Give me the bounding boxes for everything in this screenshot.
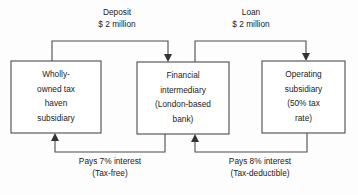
interest-7-edge-label-line: (Tax-free) (92, 168, 128, 178)
interest-7-edge-arrowhead-icon (51, 133, 59, 141)
interest-7-edge-label: Pays 7% interest(Tax-free) (79, 156, 142, 178)
interest-8-edge-label-line: (Tax-deductible) (230, 168, 289, 178)
interest-8-edge (191, 133, 307, 152)
node-operating-subsidiary-line: (50% tax (287, 98, 321, 108)
interest-8-edge-line (195, 133, 307, 152)
node-tax-haven-subsidiary-line: haven (45, 98, 68, 108)
loan-edge-label-line: $ 2 million (232, 19, 270, 29)
node-financial-intermediary-line: (London-based (155, 99, 211, 109)
interest-8-edge-label: Pays 8% interest(Tax-deductible) (229, 156, 292, 178)
node-tax-haven-subsidiary-line: subsidiary (37, 113, 75, 123)
diagram-container: Wholly-owned taxhavensubsidiaryFinancial… (0, 0, 358, 195)
loan-edge-line (195, 41, 306, 62)
deposit-edge-label: Deposit$ 2 million (98, 7, 136, 29)
interest-8-edge-arrowhead-icon (191, 134, 199, 142)
nodes-layer: Wholly-owned taxhavensubsidiaryFinancial… (11, 61, 345, 134)
node-financial-intermediary-line: Financial (166, 70, 199, 80)
loan-edge-arrowhead-icon (302, 53, 310, 61)
deposit-edge-label-line: $ 2 million (98, 19, 136, 29)
node-financial-intermediary-line: intermediary (160, 85, 207, 95)
diagram-canvas: Wholly-owned taxhavensubsidiaryFinancial… (0, 0, 358, 195)
deposit-edge-line (52, 41, 168, 61)
node-tax-haven-subsidiary-line: Wholly- (42, 69, 70, 79)
loan-edge-label: Loan$ 2 million (232, 7, 270, 29)
node-tax-haven-subsidiary[interactable]: Wholly-owned taxhavensubsidiary (11, 61, 101, 133)
node-operating-subsidiary-line: Operating (285, 69, 322, 79)
node-financial-intermediary-line: bank) (173, 114, 194, 124)
interest-7-edge-label-line: Pays 7% interest (79, 156, 142, 166)
deposit-edge-label-line: Deposit (103, 7, 132, 17)
node-operating-subsidiary-line: subsidiary (285, 84, 323, 94)
interest-7-edge (51, 133, 165, 152)
node-operating-subsidiary-line: rate) (295, 113, 312, 123)
interest-8-edge-label-line: Pays 8% interest (229, 156, 292, 166)
deposit-edge-arrowhead-icon (164, 54, 172, 62)
deposit-edge (52, 41, 172, 62)
node-financial-intermediary[interactable]: Financialintermediary(London-basedbank) (137, 62, 229, 134)
interest-7-edge-line (55, 134, 165, 152)
node-tax-haven-subsidiary-line: owned tax (37, 84, 76, 94)
node-operating-subsidiary[interactable]: Operatingsubsidiary(50% taxrate) (262, 61, 345, 133)
loan-edge (195, 41, 310, 62)
loan-edge-label-line: Loan (242, 7, 261, 17)
